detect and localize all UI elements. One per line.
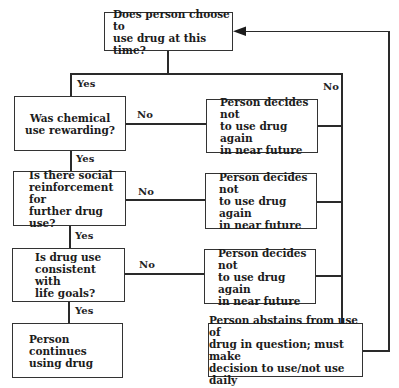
question-text: Was chemical use rewarding? (25, 112, 115, 136)
outcome-text: Person decides not to use drug again in … (220, 96, 317, 156)
yes-label-top: Yes (77, 78, 95, 89)
start-decision-box: Does person choose to use drug at this t… (104, 12, 233, 51)
no-label-1: No (137, 109, 153, 120)
question-box-social: Is there social reinforcement for furthe… (13, 171, 126, 226)
abstain-text: Person abstains from use of drug in ques… (209, 314, 362, 386)
outcome-text: Person decides not to use drug again in … (219, 171, 316, 231)
continue-text: Person continues using drug (29, 333, 122, 369)
question-box-rewarding: Was chemical use rewarding? (14, 96, 126, 151)
no-label-3: No (139, 259, 155, 270)
start-decision-text: Does person choose to use drug at this t… (105, 8, 232, 56)
question-box-life-goals: Is drug use consistent with life goals? (12, 248, 125, 302)
abstain-box: Person abstains from use of drug in ques… (208, 323, 363, 377)
outcome-box-no-3: Person decides not to use drug again in … (204, 249, 316, 304)
yes-label-2: Yes (75, 230, 93, 241)
continue-box: Person continues using drug (12, 323, 123, 378)
no-label-top: No (323, 81, 339, 92)
outcome-box-no-2: Person decides not to use drug again in … (205, 173, 317, 229)
no-label-2: No (138, 186, 154, 197)
outcome-box-no-1: Person decides not to use drug again in … (206, 99, 318, 153)
outcome-text: Person decides not to use drug again in … (218, 247, 315, 307)
question-text: Is there social reinforcement for furthe… (29, 169, 125, 229)
yes-label-3: Yes (75, 305, 93, 316)
question-text: Is drug use consistent with life goals? (35, 251, 124, 299)
yes-label-1: Yes (76, 153, 94, 164)
